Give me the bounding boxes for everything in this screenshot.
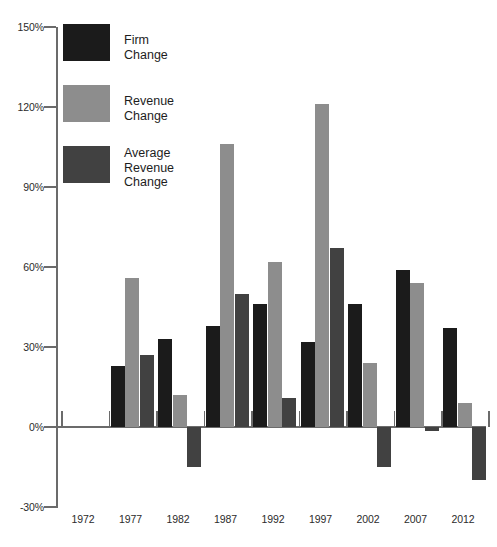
bar [158,339,172,427]
x-axis-tick-label: 1982 [155,513,201,525]
y-axis-line [56,27,58,508]
bar [206,326,220,427]
bar [425,427,439,431]
bar [173,395,187,427]
x-axis-tick [61,411,63,427]
y-axis-tick-label: 120% [0,101,44,113]
bar [125,278,139,427]
bar [253,304,267,427]
y-axis-tick-label-text: 60% [2,261,44,273]
legend-swatch-firm-change [63,24,110,61]
bar [396,270,410,427]
bar [458,403,472,427]
y-axis-tick [44,346,56,348]
y-axis-tick-label: 0% [0,421,44,433]
y-axis-tick [44,266,56,268]
legend-label-revenue-change: Revenue Change [124,85,174,123]
bar [410,283,424,427]
bar [315,104,329,427]
x-axis-tick [346,411,348,427]
x-axis-tick-label: 2012 [440,513,486,525]
y-axis-tick-label-text: 0% [2,421,44,433]
y-axis-tick [44,26,56,28]
bar [235,294,249,427]
bar [268,262,282,427]
x-axis-tick [299,411,301,427]
bar [377,427,391,467]
x-axis-tick [441,411,443,427]
bar-chart: -30%0%30%60%90%120%150% 1972197719821987… [0,0,497,547]
y-axis-tick-label: -30% [0,501,44,513]
bar [330,248,344,427]
bar [363,363,377,427]
x-axis-tick-label: 1977 [108,513,154,525]
legend-item-firm-change: Firm Change [63,24,168,62]
y-axis-tick [44,506,56,508]
legend-label-average-revenue-change: Average Revenue Change [124,146,174,190]
y-axis-tick-label: 60% [0,261,44,273]
x-axis-tick-label: 2007 [393,513,439,525]
x-axis-tick [156,411,158,427]
y-axis-tick [44,106,56,108]
bar [301,342,315,427]
y-axis-tick-label-text: -30% [2,501,44,513]
legend-item-revenue-change: Revenue Change [63,85,174,123]
bar [187,427,201,467]
x-axis-tick-label: 1997 [298,513,344,525]
y-axis-tick-label-text: 120% [2,101,44,113]
x-axis-tick [488,411,490,427]
bar [140,355,154,427]
x-axis-tick [204,411,206,427]
x-axis-tick-label: 2002 [345,513,391,525]
bar [472,427,486,480]
x-axis-tick-label: 1972 [60,513,106,525]
x-axis-tick-label: 1992 [250,513,296,525]
x-axis-tick [109,411,111,427]
x-axis-tick [251,411,253,427]
legend-swatch-revenue-change [63,85,110,122]
y-axis-tick [44,186,56,188]
bar [282,398,296,427]
bar [111,366,125,427]
x-axis-tick-label: 1987 [203,513,249,525]
x-axis-tick [394,411,396,427]
bar [348,304,362,427]
legend-label-firm-change: Firm Change [124,24,168,62]
legend-item-average-revenue-change: Average Revenue Change [63,146,174,190]
y-axis-tick-label-text: 30% [2,341,44,353]
bar [443,328,457,427]
y-axis-tick [44,426,56,428]
y-axis-tick-label-text: 90% [2,181,44,193]
y-axis-tick-label-text: 150% [2,21,44,33]
y-axis-tick-label: 30% [0,341,44,353]
legend-swatch-average-revenue-change [63,146,110,183]
y-axis-tick-label: 150% [0,21,44,33]
bar [220,144,234,427]
y-axis-tick-label: 90% [0,181,44,193]
